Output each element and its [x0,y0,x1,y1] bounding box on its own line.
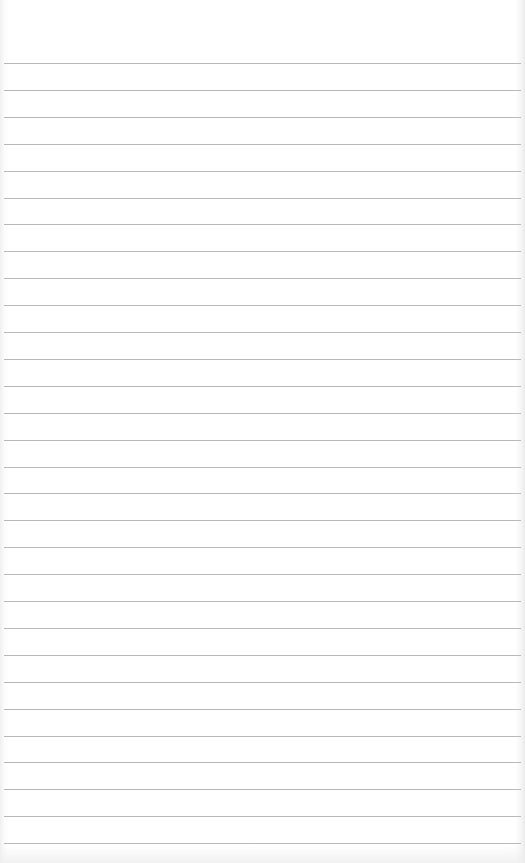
ruled-line [4,628,521,629]
ruled-line [4,843,521,844]
ruled-line [4,359,521,360]
ruled-line [4,762,521,763]
ruled-line [4,198,521,199]
ruled-line [4,816,521,817]
ruled-line [4,789,521,790]
ruled-line [4,601,521,602]
ruled-line [4,251,521,252]
ruled-line [4,386,521,387]
ruled-line [4,736,521,737]
ruled-line [4,520,521,521]
lined-paper-page [0,0,525,863]
ruled-line [4,709,521,710]
ruled-lines [0,0,525,863]
ruled-line [4,467,521,468]
ruled-line [4,90,521,91]
ruled-line [4,547,521,548]
ruled-line [4,224,521,225]
ruled-line [4,278,521,279]
ruled-line [4,332,521,333]
ruled-line [4,413,521,414]
ruled-line [4,682,521,683]
ruled-line [4,655,521,656]
ruled-line [4,144,521,145]
ruled-line [4,117,521,118]
ruled-line [4,63,521,64]
ruled-line [4,171,521,172]
ruled-line [4,440,521,441]
ruled-line [4,574,521,575]
ruled-line [4,305,521,306]
ruled-line [4,493,521,494]
